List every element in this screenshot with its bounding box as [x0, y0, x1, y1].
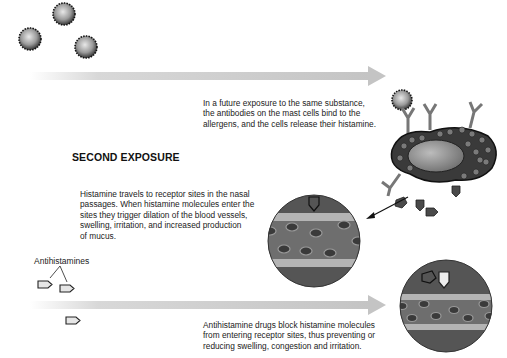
section-heading: SECOND EXPOSURE [72, 151, 180, 163]
allergen-icon [53, 3, 75, 25]
time-arrow-bottom [30, 295, 390, 315]
mast-cell-icon [391, 127, 496, 182]
antihistamine-molecule-icon [38, 281, 52, 288]
receptor-view-histamine [266, 193, 362, 289]
antihistamine-molecule-icon [66, 317, 80, 324]
allergen-cluster [0, 0, 110, 70]
allergen-icon [19, 28, 41, 50]
caption-mast-cell-release: In a future exposure to the same substan… [203, 98, 376, 129]
allergen-bound-icon [392, 90, 412, 110]
caption-antihistamine-block: Antihistamine drugs block histamine mole… [203, 320, 375, 351]
time-arrow-top [30, 66, 390, 86]
allergen-icon [75, 36, 97, 58]
mast-cell-diagram [370, 88, 507, 198]
antihistamine-molecule-icon [60, 285, 74, 292]
caption-histamine-travel: Histamine travels to receptor sites in t… [80, 189, 254, 241]
receptor-view-antihistamine [398, 258, 494, 354]
histamine-pointer-arrow [362, 195, 412, 225]
